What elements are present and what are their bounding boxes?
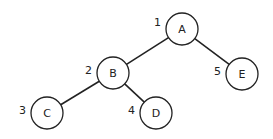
- tree-node-B: B2: [85, 57, 129, 89]
- order-number: 5: [214, 65, 221, 78]
- tree-node-C: C3: [19, 97, 63, 129]
- edge-A-E: [195, 39, 229, 65]
- tree-diagram: A1B2C3D4E5: [0, 0, 273, 139]
- node-label: D: [152, 107, 160, 120]
- node-label: C: [43, 107, 51, 120]
- tree-node-A: A1: [154, 13, 198, 45]
- order-number: 3: [19, 104, 26, 117]
- nodes: A1B2C3D4E5: [19, 13, 258, 129]
- tree-node-D: D4: [128, 97, 172, 129]
- node-label: B: [109, 67, 117, 80]
- tree-node-E: E5: [214, 58, 258, 90]
- order-number: 1: [154, 16, 161, 29]
- edge-B-C: [61, 81, 100, 104]
- edge-B-D: [125, 84, 145, 102]
- order-number: 4: [128, 104, 135, 117]
- node-label: A: [178, 23, 186, 36]
- node-label: E: [239, 68, 246, 81]
- tree-svg: A1B2C3D4E5: [0, 0, 273, 139]
- edge-A-B: [126, 38, 168, 65]
- order-number: 2: [85, 64, 92, 77]
